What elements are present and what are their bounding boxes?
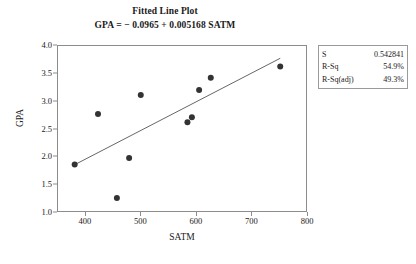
y-tick-label: 4.0 xyxy=(12,40,52,50)
statistics-box: S0.542841R-Sq54.9%R-Sq(adj)49.3% xyxy=(318,45,408,89)
data-point xyxy=(95,111,101,117)
data-point xyxy=(126,155,132,161)
plot-area xyxy=(57,45,307,212)
data-point xyxy=(138,92,144,98)
fitted-line-plot-figure: Fitted Line Plot GPA = − 0.0965 + 0.0051… xyxy=(0,0,416,264)
statistic-row: S0.542841 xyxy=(319,48,407,61)
x-tick-label: 500 xyxy=(120,216,160,226)
statistic-value: 0.542841 xyxy=(374,49,404,61)
x-axis-label: SATM xyxy=(57,232,307,242)
x-tick-label: 600 xyxy=(176,216,216,226)
data-point xyxy=(196,87,202,93)
y-tick-label: 2.0 xyxy=(12,151,52,161)
y-tick-label: 3.5 xyxy=(12,68,52,78)
data-point xyxy=(184,119,190,125)
statistic-value: 54.9% xyxy=(383,61,404,73)
x-tick-label: 800 xyxy=(287,216,327,226)
data-point xyxy=(277,64,283,70)
statistic-label: R-Sq xyxy=(322,61,338,73)
y-tick-label: 2.5 xyxy=(12,124,52,134)
statistic-label: S xyxy=(322,49,326,61)
chart-title-block: Fitted Line Plot GPA = − 0.0965 + 0.0051… xyxy=(0,6,330,32)
regression-equation: GPA = − 0.0965 + 0.005168 SATM xyxy=(0,20,330,32)
statistic-value: 49.3% xyxy=(383,74,404,86)
y-tick-label: 1.5 xyxy=(12,179,52,189)
y-tick-label: 1.0 xyxy=(12,207,52,217)
fitted-regression-line xyxy=(75,58,281,164)
data-point xyxy=(208,75,214,81)
statistic-row: R-Sq54.9% xyxy=(319,61,407,74)
regression-line xyxy=(75,58,281,164)
data-point xyxy=(114,195,120,201)
data-point xyxy=(72,162,78,168)
statistic-row: R-Sq(adj)49.3% xyxy=(319,73,407,86)
page-title: Fitted Line Plot xyxy=(0,6,330,18)
data-point xyxy=(189,114,195,120)
y-tick-label: 3.0 xyxy=(12,96,52,106)
statistic-label: R-Sq(adj) xyxy=(322,74,354,86)
data-points-group xyxy=(72,64,284,201)
x-tick-label: 400 xyxy=(65,216,105,226)
scatter-plot-svg xyxy=(58,46,308,213)
x-tick-label: 700 xyxy=(231,216,271,226)
